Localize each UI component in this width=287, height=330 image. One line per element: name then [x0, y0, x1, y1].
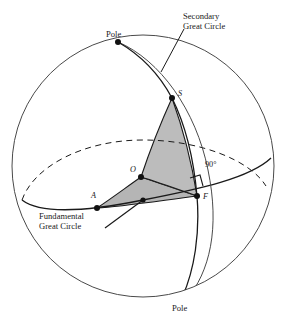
label-point-f: F — [203, 192, 208, 201]
sphere-figure-svg — [0, 0, 287, 330]
label-secondary-great-circle: Secondary Great Circle — [183, 12, 225, 31]
point-dot-s — [169, 95, 175, 101]
point-dot-fundamental-leader-anchor — [140, 197, 145, 202]
label-point-a: A — [91, 191, 96, 200]
secondary-great-circle-leader-line — [161, 29, 184, 72]
label-right-angle-90: 90° — [205, 160, 216, 169]
spherical-triangle-diagram: Secondary Great Circle Fundamental Great… — [0, 0, 287, 330]
point-dot-pole-top — [115, 39, 121, 45]
label-pole-bottom: Pole — [172, 304, 187, 314]
point-dot-a — [94, 205, 100, 211]
label-fundamental-great-circle: Fundamental Great Circle — [39, 212, 84, 231]
label-pole-top: Pole — [106, 30, 121, 40]
label-point-o: O — [130, 165, 136, 174]
point-dot-f — [194, 193, 200, 199]
label-point-s: S — [178, 89, 182, 98]
label-fundamental-great-circle-line2: Great Circle — [39, 222, 84, 232]
sphere-outline-circle — [12, 35, 274, 297]
label-secondary-great-circle-line2: Great Circle — [183, 22, 225, 32]
point-dot-o — [138, 174, 144, 180]
